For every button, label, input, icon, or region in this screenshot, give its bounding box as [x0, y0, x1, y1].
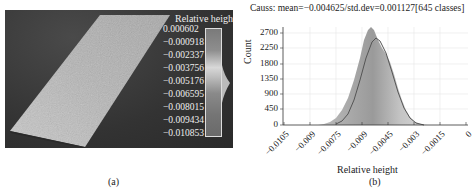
histogram-plot: [0, 0, 474, 196]
y-tick-label: 2250: [252, 42, 278, 52]
y-tick-label: 900: [252, 88, 278, 98]
x-axis-label: Relative height: [337, 164, 398, 175]
y-tick-label: 0: [252, 119, 278, 129]
y-tick-label: 1350: [252, 73, 278, 83]
y-tick-label: 2700: [252, 27, 278, 37]
y-tick-label: 450: [252, 103, 278, 113]
caption-b: (b): [369, 176, 381, 187]
y-tick-label: 1800: [252, 58, 278, 68]
y-axis-label: Count: [242, 40, 253, 64]
